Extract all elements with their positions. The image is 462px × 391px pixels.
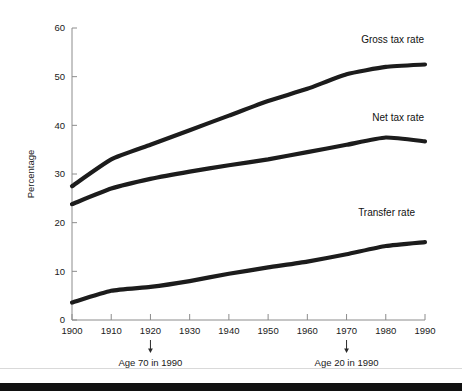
x-tick-label: 1900 — [61, 325, 82, 336]
y-tick-label: 50 — [54, 71, 65, 82]
x-tick-label: 1910 — [101, 325, 122, 336]
line-chart: 0102030405060 19001910192019301940195019… — [0, 0, 462, 391]
chart-container: 0102030405060 19001910192019301940195019… — [0, 0, 462, 391]
x-tick-label: 1930 — [179, 325, 200, 336]
series-label-gross-tax-rate: Gross tax rate — [361, 34, 424, 45]
y-tick-label: 60 — [54, 22, 65, 33]
y-tick-label: 40 — [54, 120, 65, 131]
x-tick-label: 1940 — [218, 325, 239, 336]
y-tick-label: 10 — [54, 266, 65, 277]
x-tick-label: 1920 — [140, 325, 161, 336]
annotation-label: Age 70 in 1990 — [118, 357, 182, 368]
y-tick-label: 0 — [60, 314, 65, 325]
series-label-net-tax-rate: Net tax rate — [372, 112, 424, 123]
x-tick-label: 1960 — [297, 325, 318, 336]
y-axis-title: Percentage — [25, 150, 36, 199]
y-tick-label: 20 — [54, 217, 65, 228]
footer-bar — [0, 383, 462, 391]
footer-divider — [0, 368, 462, 369]
x-tick-label: 1980 — [375, 325, 396, 336]
series-label-transfer-rate: Transfer rate — [358, 207, 415, 218]
x-tick-label: 1990 — [414, 325, 435, 336]
x-tick-label: 1950 — [258, 325, 279, 336]
annotation-label: Age 20 in 1990 — [315, 357, 379, 368]
x-tick-label: 1970 — [336, 325, 357, 336]
y-tick-label: 30 — [54, 168, 65, 179]
